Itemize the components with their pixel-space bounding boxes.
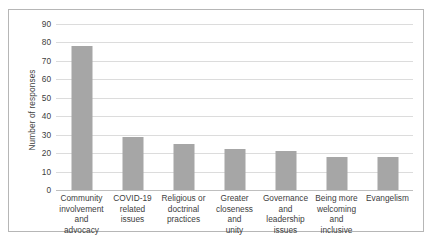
bar[interactable] xyxy=(224,149,245,190)
x-tick-label-line: issues xyxy=(260,225,311,236)
x-tick-label-line: Governance and xyxy=(260,193,311,214)
plot-area: 0102030405060708090 xyxy=(56,24,413,190)
x-tick-label-line: Greater xyxy=(209,193,260,204)
x-tick-label: Evangelism xyxy=(362,193,413,204)
x-tick-label-line: related issues xyxy=(107,204,158,225)
x-tick-label-line: and advocacy xyxy=(56,214,107,235)
bar-series xyxy=(56,24,413,190)
y-tick-label: 30 xyxy=(42,130,51,140)
x-tick-label: Communityinvolvementand advocacy xyxy=(56,193,107,235)
y-tick-label: 60 xyxy=(42,74,51,84)
bar-slot xyxy=(311,24,362,190)
x-tick-label-line: welcoming and xyxy=(311,204,362,225)
x-tick-label-line: closeness and xyxy=(209,204,260,225)
x-tick-label: Governance andleadershipissues xyxy=(260,193,311,235)
bar[interactable] xyxy=(122,137,143,190)
x-tick-label-line: doctrinal xyxy=(158,204,209,215)
y-tick-label: 40 xyxy=(42,111,51,121)
bar-slot xyxy=(362,24,413,190)
bar-slot xyxy=(56,24,107,190)
y-tick-label: 70 xyxy=(42,56,51,66)
x-tick-label: Greatercloseness andunity xyxy=(209,193,260,235)
bar[interactable] xyxy=(326,157,347,190)
x-tick-label-line: Community xyxy=(56,193,107,204)
bar-slot xyxy=(209,24,260,190)
bar-slot xyxy=(107,24,158,190)
x-tick-label-line: Evangelism xyxy=(362,193,413,204)
x-tick-label-line: inclusive xyxy=(311,225,362,236)
x-tick-label-line: Being more xyxy=(311,193,362,204)
x-tick-label: Being morewelcoming andinclusive xyxy=(311,193,362,235)
y-tick-label: 90 xyxy=(42,19,51,29)
y-tick-label: 0 xyxy=(46,185,51,195)
y-tick-label: 80 xyxy=(42,37,51,47)
bar-slot xyxy=(260,24,311,190)
x-axis-labels: Communityinvolvementand advocacyCOVID-19… xyxy=(56,193,413,235)
bar[interactable] xyxy=(173,144,194,190)
x-axis-line: 0 xyxy=(56,190,413,191)
bar[interactable] xyxy=(275,151,296,190)
bar[interactable] xyxy=(71,46,92,190)
x-tick-label-line: leadership xyxy=(260,214,311,225)
x-tick-label-line: practices xyxy=(158,214,209,225)
x-tick-label-line: Religious or xyxy=(158,193,209,204)
y-tick-label: 50 xyxy=(42,93,51,103)
bar-slot xyxy=(158,24,209,190)
chart-frame: Number of responses 0102030405060708090 … xyxy=(8,9,424,232)
bar[interactable] xyxy=(377,157,398,190)
x-tick-label-line: involvement xyxy=(56,204,107,215)
x-tick-label: Religious ordoctrinalpractices xyxy=(158,193,209,225)
x-tick-label-line: unity xyxy=(209,225,260,236)
x-tick-label: COVID-19related issues xyxy=(107,193,158,225)
y-tick-label: 20 xyxy=(42,148,51,158)
y-axis-title: Number of responses xyxy=(27,45,37,175)
y-tick-label: 10 xyxy=(42,167,51,177)
x-tick-label-line: COVID-19 xyxy=(107,193,158,204)
